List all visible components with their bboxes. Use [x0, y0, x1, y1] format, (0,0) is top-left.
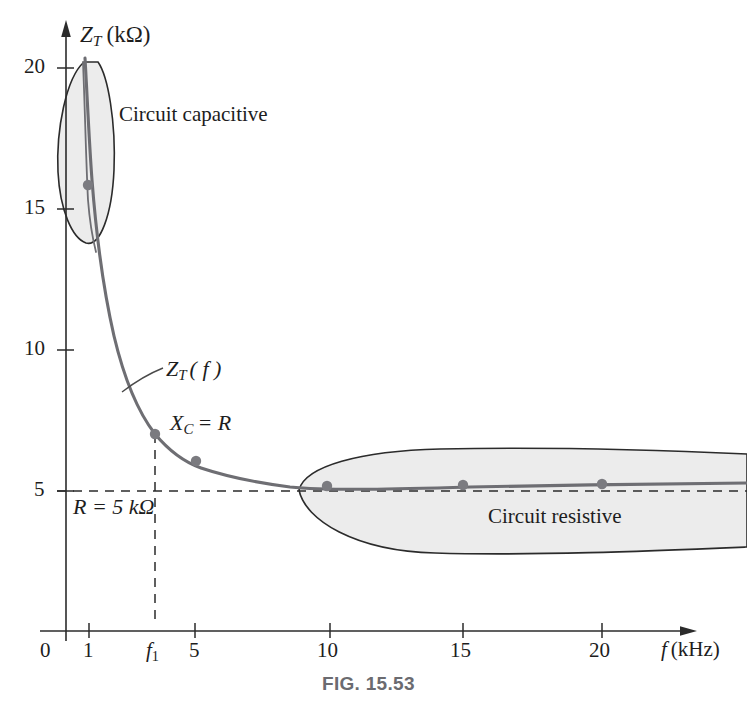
x-axis-arrowhead — [680, 626, 697, 636]
x-tick-label-0: 0 — [40, 640, 51, 661]
x-axis-title-unit: (kHz) — [671, 637, 720, 661]
y-tick-label-20: 20 — [24, 56, 45, 77]
f1-subscript: 1 — [152, 648, 159, 664]
x-axis-title-symbol: f — [661, 637, 667, 661]
x-axis-title: f(kHz) — [661, 639, 720, 660]
y-axis-title-subscript: T — [93, 32, 102, 49]
figure-container: ZT(kΩ) f(kHz) 20 15 10 5 0 1 5 10 15 20 … — [0, 0, 747, 711]
x-tick-label-1: 1 — [83, 640, 94, 661]
label-resistance-value: R = 5 kΩ — [73, 496, 154, 518]
y-tick-label-5: 5 — [34, 479, 45, 500]
data-point-f20k — [597, 479, 607, 489]
data-point-fc — [150, 429, 160, 439]
figure-caption: FIG. 15.53 — [322, 673, 415, 695]
y-axis-title-symbol: Z — [80, 22, 93, 47]
impedance-subscript: T — [178, 367, 186, 383]
label-xc-equals-r: XC= R — [170, 412, 231, 437]
data-point-f15k — [458, 480, 468, 490]
reactance-symbol: X — [170, 410, 183, 435]
chart-canvas — [0, 0, 747, 711]
impedance-argument: ( f ) — [190, 356, 222, 381]
x-tick-label-10: 10 — [317, 640, 338, 661]
x-tick-label-5: 5 — [189, 640, 200, 661]
y-axis-title-unit: (kΩ) — [107, 22, 151, 47]
impedance-symbol: Z — [166, 356, 178, 381]
region-resistive-shape — [299, 448, 747, 554]
x-tick-label-f1: f1 — [146, 640, 159, 663]
x-tick-label-15: 15 — [450, 640, 471, 661]
y-axis-title: ZT(kΩ) — [80, 23, 150, 49]
label-circuit-resistive: Circuit resistive — [488, 506, 622, 527]
label-impedance-function: ZT( f ) — [166, 358, 221, 383]
y-tick-label-10: 10 — [24, 338, 45, 359]
data-point-f5k — [191, 456, 201, 466]
x-tick-label-20: 20 — [589, 640, 610, 661]
resistance-text: R = 5 kΩ — [73, 494, 154, 519]
label-circuit-capacitive: Circuit capacitive — [119, 104, 268, 125]
data-point-f10k — [322, 481, 332, 491]
reactance-equality: = R — [197, 410, 231, 435]
y-axis-arrowhead — [61, 20, 71, 37]
y-tick-label-15: 15 — [24, 197, 45, 218]
reactance-subscript: C — [183, 421, 193, 437]
data-point-f1k — [83, 180, 93, 190]
